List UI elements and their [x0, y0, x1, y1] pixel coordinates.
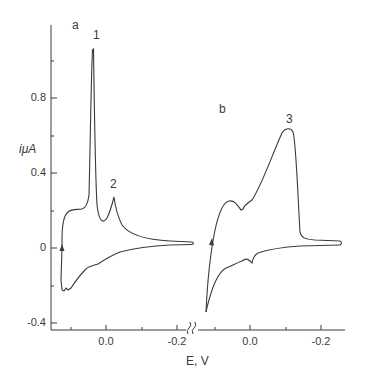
peak-label-2: 2 — [110, 178, 117, 190]
y-tick-label: 0 — [12, 242, 46, 253]
sweep-direction-arrow-icon — [60, 244, 65, 251]
x-tick-label: -0.2 — [306, 336, 336, 347]
panel-label-b: b — [219, 103, 226, 115]
curve-b-reverse — [206, 245, 340, 312]
y-tick-label: 0.8 — [12, 92, 46, 103]
curve-a-reverse — [61, 245, 192, 292]
curve-b-forward — [206, 129, 340, 312]
cyclic-voltammogram-plot — [0, 0, 388, 377]
x-tick-label: -0.2 — [162, 336, 192, 347]
curve-a-forward — [62, 49, 192, 248]
panel-label-a: a — [72, 19, 79, 31]
peak-label-1: 1 — [93, 29, 100, 41]
y-tick-label: -0.4 — [12, 317, 46, 328]
y-axis-label: iμA — [19, 143, 36, 155]
x-tick-label: 0.0 — [235, 336, 265, 347]
peak-label-3: 3 — [286, 113, 293, 125]
y-tick-label: 0.4 — [12, 167, 46, 178]
x-axis-label: E, V — [186, 355, 209, 367]
axis-break-icon — [187, 322, 196, 334]
x-tick-label: 0.0 — [91, 336, 121, 347]
